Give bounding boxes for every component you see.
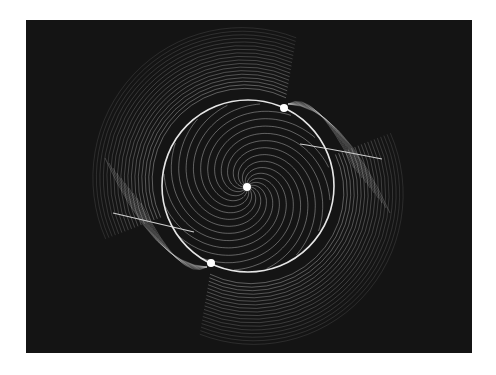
streamline — [137, 198, 207, 269]
streamline — [288, 103, 370, 188]
spiral-streamline — [208, 119, 315, 201]
streamline — [208, 149, 358, 297]
center-fixed-point — [243, 183, 251, 191]
upper-saddle-point — [280, 104, 288, 112]
spiral-streamline — [179, 173, 286, 255]
streamline — [288, 104, 374, 193]
lower-saddle-point — [207, 259, 215, 267]
streamline-svg — [26, 20, 472, 353]
streamline — [202, 138, 389, 330]
streamline — [204, 142, 379, 319]
streamline — [200, 133, 403, 344]
spiral-streamline — [179, 119, 261, 226]
streamline — [288, 103, 366, 183]
spiral-streamline — [233, 148, 315, 255]
streamline-plot — [26, 20, 472, 353]
streamline — [205, 144, 371, 312]
streamline — [117, 53, 292, 230]
